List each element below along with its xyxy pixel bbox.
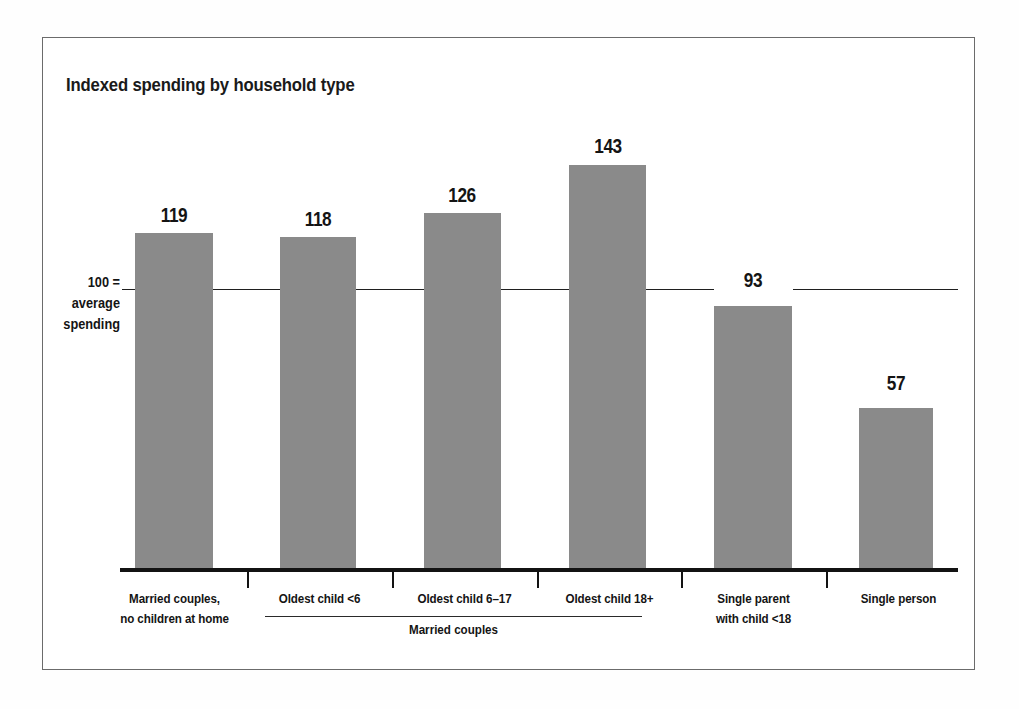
group-label-married-couples: Married couples: [291, 622, 615, 637]
reference-line-segment-right: [793, 289, 958, 290]
bar-single-person: [859, 408, 933, 568]
x-axis-tick: [537, 571, 539, 588]
category-label-line-1: Oldest child <6: [257, 589, 382, 609]
y-axis-reference-label: 100 = average spending: [14, 272, 120, 335]
category-label-oldest-child-18-plus: Oldest child 18+: [547, 589, 672, 609]
x-axis-tick: [247, 571, 249, 588]
x-axis-tick: [392, 571, 394, 588]
category-label-married-no-children: Married couples, no children at home: [112, 589, 237, 629]
category-label-line-1: Oldest child 18+: [547, 589, 672, 609]
x-axis-tick: [681, 571, 683, 588]
category-label-line-1: Single person: [836, 589, 961, 609]
category-label-oldest-child-6-17: Oldest child 6–17: [402, 589, 527, 609]
category-label-line-1: Oldest child 6–17: [402, 589, 527, 609]
category-label-line-1: Single parent: [691, 589, 816, 609]
bar-oldest-child-18-plus: [569, 165, 646, 568]
bar-value-label: 119: [141, 203, 207, 227]
category-label-single-person: Single person: [836, 589, 961, 609]
y-axis-label-line-3: spending: [14, 314, 120, 335]
chart-page: Indexed spending by household type 100 =…: [0, 0, 1019, 709]
chart-title: Indexed spending by household type: [66, 74, 355, 96]
category-label-single-parent: Single parent with child <18: [691, 589, 816, 629]
bar-married-no-children: [135, 233, 213, 568]
x-axis-baseline: [120, 568, 958, 572]
category-label-oldest-child-under-6: Oldest child <6: [257, 589, 382, 609]
group-bracket-line: [265, 616, 642, 617]
bar-single-parent: [714, 306, 792, 568]
bar-value-label: 118: [285, 207, 351, 231]
bar-oldest-child-under-6: [280, 237, 356, 568]
bar-oldest-child-6-17: [424, 213, 501, 568]
x-axis-tick: [826, 571, 828, 588]
bar-value-label: 57: [864, 371, 928, 395]
bar-value-label: 126: [429, 183, 495, 207]
category-label-line-2: with child <18: [691, 609, 816, 629]
bar-value-label: 143: [575, 134, 641, 158]
category-label-line-2: no children at home: [112, 609, 237, 629]
y-axis-label-line-1: 100 =: [14, 272, 120, 293]
category-label-line-1: Married couples,: [112, 589, 237, 609]
bar-value-label: 93: [720, 268, 786, 292]
y-axis-label-line-2: average: [14, 293, 120, 314]
